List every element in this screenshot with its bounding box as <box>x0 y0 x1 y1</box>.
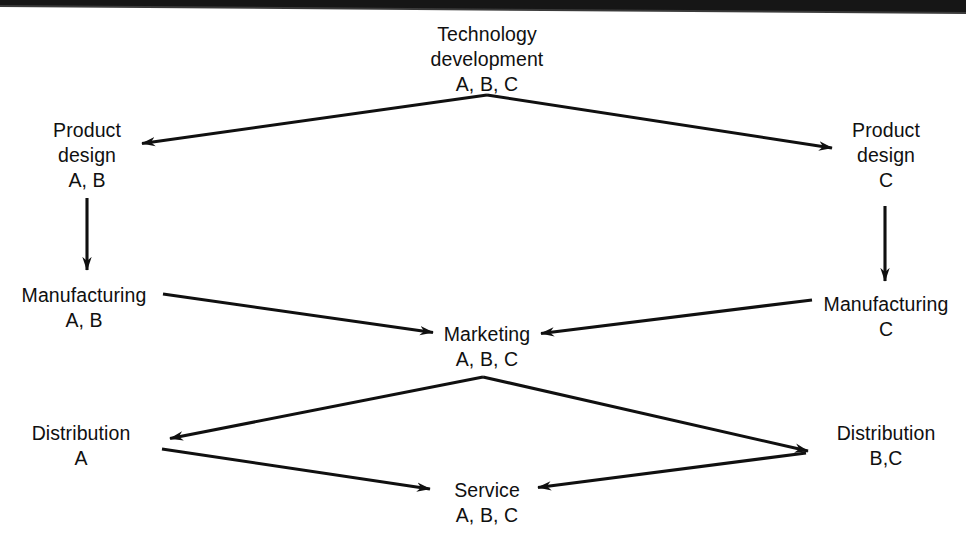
node-codes: A, B, C <box>454 503 520 528</box>
node-codes: A, B, C <box>444 347 531 372</box>
node-label-line-2: design <box>53 143 121 168</box>
node-technology-development: Technology development A, B, C <box>431 22 544 97</box>
node-product-design-right: Product design C <box>852 118 920 193</box>
edge-marketing-to-distribution-left <box>170 377 483 439</box>
edge-distribution-left-to-service <box>162 449 430 489</box>
node-label-line-1: Distribution <box>837 421 936 446</box>
node-marketing: Marketing A, B, C <box>444 322 531 372</box>
node-label-line-1: Marketing <box>444 322 531 347</box>
node-codes: B,C <box>837 446 936 471</box>
node-manufacturing-left: Manufacturing A, B <box>22 283 147 333</box>
edge-distribution-right-to-service <box>538 453 806 488</box>
node-distribution-left: Distribution A <box>32 421 131 471</box>
node-product-design-left: Product design A, B <box>53 118 121 193</box>
node-codes: A, B <box>53 168 121 193</box>
node-label-line-1: Product <box>852 118 920 143</box>
node-codes: A, B <box>22 308 147 333</box>
edge-tech-to-product-design-left <box>142 95 487 144</box>
edge-marketing-to-distribution-right <box>483 377 808 451</box>
node-codes: C <box>852 168 920 193</box>
node-label-line-2: design <box>852 143 920 168</box>
node-label-line-1: Manufacturing <box>824 292 949 317</box>
diagram-canvas: Technology development A, B, C Product d… <box>0 0 966 549</box>
node-codes: A <box>32 446 131 471</box>
node-codes: C <box>824 317 949 342</box>
edge-manufacturing-right-to-marketing <box>541 300 812 334</box>
node-label-line-1: Service <box>454 478 520 503</box>
node-label-line-2: development <box>431 47 544 72</box>
node-distribution-right: Distribution B,C <box>837 421 936 471</box>
node-codes: A, B, C <box>431 72 544 97</box>
node-manufacturing-right: Manufacturing C <box>824 292 949 342</box>
edge-tech-to-product-design-right <box>487 95 832 148</box>
node-label-line-1: Distribution <box>32 421 131 446</box>
node-label-line-1: Product <box>53 118 121 143</box>
edge-manufacturing-left-to-marketing <box>163 294 433 333</box>
node-label-line-1: Manufacturing <box>22 283 147 308</box>
node-label-line-1: Technology <box>431 22 544 47</box>
node-service: Service A, B, C <box>454 478 520 528</box>
